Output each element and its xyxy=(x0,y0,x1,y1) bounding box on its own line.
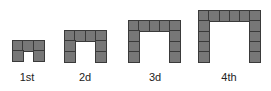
square-tile xyxy=(169,51,181,63)
figure-label: 2d xyxy=(79,71,91,83)
square-tile xyxy=(128,51,140,63)
square-tile xyxy=(95,51,107,63)
figure-label: 4th xyxy=(221,71,236,83)
square-tile xyxy=(249,51,261,63)
square-tile xyxy=(198,51,210,63)
square-tile xyxy=(12,50,24,62)
figure-label: 3d xyxy=(149,71,161,83)
square-tile xyxy=(64,51,76,63)
square-tile xyxy=(33,50,45,62)
figure-label: 1st xyxy=(20,71,35,83)
